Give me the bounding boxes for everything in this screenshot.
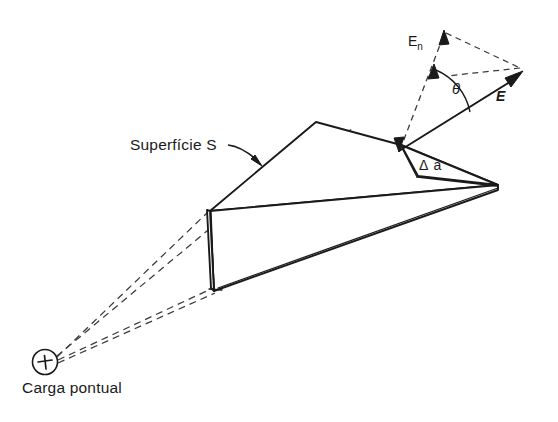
physics-diagram: [0, 0, 558, 422]
normal-vector-stem: [400, 37, 443, 150]
point-charge-group: [33, 350, 58, 375]
normal-component-subscript: n: [417, 41, 423, 52]
surface-leader-arrowhead: [251, 155, 262, 166]
charge-ray-to-top-left-corner: [57, 212, 208, 357]
point-charge-label: Carga pontual: [22, 379, 122, 397]
normal-vector-arrowhead-mid: [428, 64, 439, 79]
field-vector-arrowhead: [505, 71, 523, 87]
field-vector-label: E: [496, 88, 505, 104]
parallelogram-top-edge: [446, 33, 520, 68]
angle-theta-label: θ: [452, 80, 460, 97]
charge-ray-to-apex: [57, 216, 225, 356]
surface-leader-group: [228, 145, 262, 166]
normal-vector-arrowhead-top: [439, 30, 449, 45]
field-vector-group: [399, 71, 523, 151]
vector-parallelogram-group: [446, 33, 520, 76]
charge-ray-to-far-right-corner: [58, 293, 215, 363]
normal-component-letter: E: [408, 33, 417, 49]
surface-solid-group: [207, 122, 498, 291]
area-element-label: Δ a: [419, 157, 442, 173]
charge-ray-to-bottom-corner: [58, 289, 211, 360]
charge-rays-group: [57, 212, 225, 363]
surface-label: Superfície S: [130, 136, 217, 154]
normal-component-label: En: [408, 33, 423, 52]
parallelogram-right-edge: [447, 68, 520, 76]
